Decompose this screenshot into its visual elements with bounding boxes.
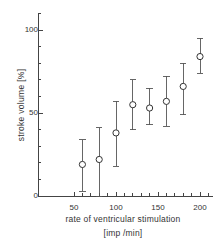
chart-figure: stroke volume [%] rate of ventricular st… [0,0,224,243]
data-point-marker [96,156,102,162]
data-point-marker [163,98,169,104]
data-point-marker [130,102,136,108]
data-point-marker [197,53,203,59]
data-point-marker [79,161,85,167]
plot-area [0,0,224,243]
data-point-marker [180,83,186,89]
data-point-marker [147,105,153,111]
errorbars-group [79,38,203,196]
data-point-marker [113,130,119,136]
axes-group [38,13,213,196]
data-markers-group [79,53,203,167]
